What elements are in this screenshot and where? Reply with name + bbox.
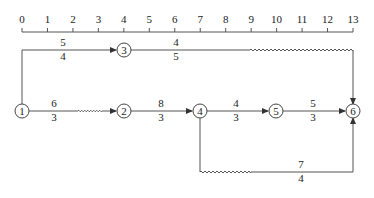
axis-tick-label: 11 bbox=[297, 13, 308, 25]
edge-5-6-resource: 3 bbox=[310, 111, 316, 123]
axis-tick-label: 9 bbox=[248, 13, 254, 25]
edge-1-2-resource: 3 bbox=[51, 111, 57, 123]
edge-4-5-resource: 3 bbox=[233, 111, 239, 123]
edge-3-6-resource: 5 bbox=[173, 50, 179, 62]
edge-1-2-duration: 6 bbox=[51, 97, 57, 109]
axis-tick-label: 12 bbox=[322, 13, 333, 25]
axis-tick-label: 13 bbox=[348, 13, 360, 25]
node-3-label: 3 bbox=[121, 44, 127, 56]
axis-tick-label: 0 bbox=[19, 13, 25, 25]
edge-1-3 bbox=[22, 50, 116, 104]
node-5-label: 5 bbox=[273, 105, 279, 117]
node-1-label: 1 bbox=[19, 105, 25, 117]
edge-2-4-duration: 8 bbox=[158, 97, 164, 109]
axis-tick-label: 7 bbox=[197, 13, 203, 25]
axis-tick-label: 5 bbox=[147, 13, 153, 25]
axis-tick-label: 4 bbox=[121, 13, 127, 25]
free-float-3-6 bbox=[250, 49, 353, 51]
time-axis: 012345678910111213 bbox=[19, 13, 359, 32]
edge-2-4-resource: 3 bbox=[158, 111, 164, 123]
axis-tick-label: 10 bbox=[271, 13, 283, 25]
axis-tick-label: 2 bbox=[70, 13, 76, 25]
node-2-label: 2 bbox=[121, 105, 127, 117]
edge-4-6-resource: 4 bbox=[298, 172, 304, 184]
free-float-4-6 bbox=[200, 171, 251, 173]
node-6-label: 6 bbox=[350, 105, 356, 117]
edge-3-6-duration: 4 bbox=[173, 36, 179, 48]
axis-tick-label: 6 bbox=[172, 13, 178, 25]
free-float-1-2 bbox=[78, 110, 102, 112]
edge-1-3-resource: 4 bbox=[60, 50, 66, 62]
axis-tick-label: 1 bbox=[45, 13, 51, 25]
edge-4-5-duration: 4 bbox=[233, 97, 239, 109]
node-4-label: 4 bbox=[197, 105, 203, 117]
edge-4-6-duration: 7 bbox=[298, 158, 304, 170]
edge-5-6-duration: 5 bbox=[310, 97, 316, 109]
edge-1-3-duration: 5 bbox=[60, 36, 66, 48]
axis-tick-label: 3 bbox=[96, 13, 102, 25]
axis-tick-label: 8 bbox=[223, 13, 229, 25]
time-scaled-network-diagram: 012345678910111213 5 4 4 5 6 3 8 3 4 3 bbox=[0, 0, 374, 198]
